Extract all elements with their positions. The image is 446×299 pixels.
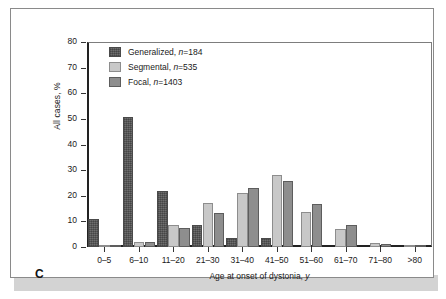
- bar-generalized-4150: [261, 238, 272, 247]
- bar-segmental-6170: [335, 229, 346, 247]
- legend-label: Generalized, n=184: [128, 47, 202, 57]
- x-tick-line: [242, 247, 243, 252]
- y-tick-label: 50: [55, 113, 77, 123]
- x-tick-line: [173, 247, 174, 252]
- y-tick-label: 40: [55, 139, 77, 149]
- x-tick-line: [415, 247, 416, 252]
- bar-focal-7180: [381, 244, 392, 247]
- bar-segmental-1120: [168, 225, 179, 247]
- bar-focal-610: [145, 242, 156, 247]
- legend-item-generalized: Generalized, n=184: [109, 45, 202, 59]
- x-tick-label: >80: [389, 255, 441, 265]
- bar-focal-5160: [312, 204, 323, 247]
- bar-generalized-05: [88, 219, 99, 247]
- y-tick-line: [81, 196, 86, 197]
- y-tick-line: [81, 145, 86, 146]
- y-tick-label: 80: [55, 36, 77, 46]
- bar-segmental-2130: [203, 203, 214, 247]
- y-tick-label: 20: [55, 190, 77, 200]
- y-tick-label: 10: [55, 215, 77, 225]
- bar-focal-05: [110, 245, 121, 247]
- y-tick-line: [81, 221, 86, 222]
- bar-focal-6170: [346, 225, 357, 247]
- bar-generalized-610: [123, 117, 134, 247]
- y-tick-line: [81, 170, 86, 171]
- y-tick-line: [81, 68, 86, 69]
- bar-segmental-5160: [301, 212, 312, 247]
- bar-segmental->80: [404, 245, 415, 247]
- bar-generalized-3140: [226, 238, 237, 247]
- legend-item-focal: Focal, n=1403: [109, 75, 202, 89]
- bar-focal-4150: [283, 181, 294, 247]
- figure-outer-frame: All cases, % 01020304050607080 0–56–1011…: [10, 8, 434, 278]
- y-tick-line: [81, 93, 86, 94]
- legend-label: Focal, n=1403: [128, 77, 182, 87]
- x-axis-title: Age at onset of dystonia, y: [87, 271, 432, 281]
- y-tick-label: 30: [55, 164, 77, 174]
- figure-root: All cases, % 01020304050607080 0–56–1011…: [0, 0, 446, 299]
- x-tick-line: [380, 247, 381, 252]
- bar-segmental-3140: [237, 193, 248, 247]
- x-tick-line: [277, 247, 278, 252]
- x-tick-line: [311, 247, 312, 252]
- y-tick-label: 0: [55, 241, 77, 251]
- bar-generalized-2130: [192, 225, 203, 247]
- x-tick-line: [346, 247, 347, 252]
- x-tick-line: [208, 247, 209, 252]
- panel-label: C: [35, 267, 44, 281]
- chart-legend: Generalized, n=184Segmental, n=535Focal,…: [109, 45, 202, 90]
- bar-segmental-7180: [370, 243, 381, 247]
- x-tick-line: [104, 247, 105, 252]
- bar-focal-2130: [214, 213, 225, 247]
- legend-label: Segmental, n=535: [128, 62, 197, 72]
- bar-focal-1120: [179, 228, 190, 247]
- x-tick-line: [139, 247, 140, 252]
- swatch-focal: [109, 77, 121, 87]
- y-tick-line: [81, 247, 86, 248]
- y-tick-label: 70: [55, 62, 77, 72]
- bar-focal->80: [415, 245, 426, 247]
- swatch-segmental: [109, 62, 121, 72]
- bar-segmental-4150: [272, 175, 283, 247]
- bar-focal-3140: [248, 188, 259, 247]
- y-tick-line: [81, 42, 86, 43]
- swatch-generalized: [109, 47, 121, 57]
- y-tick-line: [81, 119, 86, 120]
- bar-generalized-1120: [157, 191, 168, 247]
- legend-item-segmental: Segmental, n=535: [109, 60, 202, 74]
- y-tick-label: 60: [55, 87, 77, 97]
